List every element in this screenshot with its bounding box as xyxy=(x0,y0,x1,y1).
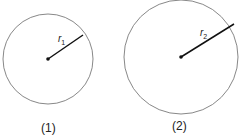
caption-2: (2) xyxy=(172,119,187,133)
circles-diagram xyxy=(0,0,239,137)
center-dot-2 xyxy=(179,55,183,59)
radius-label-2: r2 xyxy=(200,27,207,40)
center-dot-1 xyxy=(46,57,50,61)
radius-line-2 xyxy=(181,24,234,57)
caption-1: (1) xyxy=(41,121,56,135)
radius-label-1: r1 xyxy=(58,33,65,46)
radius-line-1 xyxy=(48,35,83,59)
